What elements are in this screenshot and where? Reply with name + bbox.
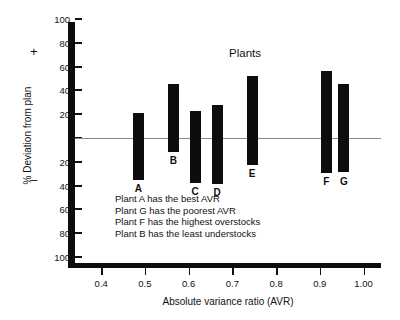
bar-g	[338, 84, 349, 172]
annotation-line-3: Plant F has the highest overstocks	[115, 216, 260, 228]
y-axis-tick	[75, 89, 82, 91]
y-axis-tick-label-text: 80	[59, 228, 76, 239]
annotation-list: Plant A has the best AVRPlant G has the …	[115, 193, 260, 239]
chart-title: Plants	[229, 47, 261, 59]
y-axis-tick	[75, 161, 82, 163]
y-axis-tick-label-text: 20	[59, 156, 76, 167]
y-axis-tick	[75, 113, 82, 115]
bar-c	[190, 111, 201, 184]
annotation-line-2: Plant G has the poorest AVR	[115, 205, 260, 217]
x-axis-tick	[232, 268, 234, 275]
y-axis-tick-label-text: 60	[59, 61, 76, 72]
bar-label-g: G	[340, 176, 348, 187]
y-axis-tick-label: 20	[59, 156, 76, 167]
y-axis-tick	[75, 42, 82, 44]
y-axis-tick-label: 100	[54, 14, 76, 25]
negative-sign-label: –	[30, 172, 37, 187]
positive-sign-label: +	[30, 44, 38, 59]
y-axis-tick-label: 60	[59, 204, 76, 215]
chart-canvas: 1008060402020406080100 0.40.50.60.70.80.…	[0, 0, 400, 320]
y-axis-tick-label-text: 60	[59, 204, 76, 215]
bar-e	[247, 76, 258, 165]
bar-label-f: F	[323, 176, 329, 187]
y-axis-tick-label-text: 100	[54, 252, 76, 263]
zero-reference-line	[75, 138, 381, 139]
x-axis-tick-label: 0.6	[182, 278, 195, 289]
y-axis-tick-label: 80	[59, 37, 76, 48]
bar-f	[321, 71, 332, 172]
y-axis-tick-label-text: 20	[59, 109, 76, 120]
x-axis-tick-label: 0.8	[269, 278, 282, 289]
y-axis-tick-label-text: 80	[59, 37, 76, 48]
x-axis-tick	[276, 268, 278, 275]
y-axis-tick-label: 40	[59, 85, 76, 96]
y-axis-tick-label: 80	[59, 228, 76, 239]
annotation-line-1: Plant A has the best AVR	[115, 193, 260, 205]
y-axis-title: % Deviation from plan	[22, 56, 33, 216]
x-axis-tick	[101, 268, 103, 275]
x-axis-tick-label: 0.9	[313, 278, 326, 289]
y-axis-tick-label: 40	[59, 180, 76, 191]
y-axis-tick	[75, 232, 82, 234]
bar-d	[212, 105, 223, 185]
y-axis-tick	[75, 256, 82, 258]
y-axis-tick	[75, 18, 82, 20]
x-axis-tick	[320, 268, 322, 275]
annotation-line-4: Plant B has the least understocks	[115, 228, 260, 240]
x-axis-tick-label: 0.4	[95, 278, 108, 289]
y-axis-tick-label: 20	[59, 109, 76, 120]
bar-b	[168, 84, 179, 152]
y-axis-tick	[75, 185, 82, 187]
bar-label-e: E	[249, 168, 256, 179]
bar-label-b: B	[170, 155, 177, 166]
x-axis-tick-label: 0.7	[226, 278, 239, 289]
x-axis-tick-label: 0.5	[138, 278, 151, 289]
y-axis-tick-label-text: 100	[54, 14, 76, 25]
y-axis-tick	[75, 66, 82, 68]
y-axis-tick-label: 100	[54, 252, 76, 263]
y-axis-tick-label: 60	[59, 61, 76, 72]
x-axis-tick	[189, 268, 191, 275]
x-axis-tick	[145, 268, 147, 275]
x-axis-spine	[68, 263, 381, 268]
bar-label-a: A	[135, 183, 142, 194]
x-axis-tick	[364, 268, 366, 275]
x-axis-tick-label: 1.00	[354, 278, 373, 289]
y-axis-tick-label-text: 40	[59, 85, 76, 96]
y-axis-tick-label-text: 40	[59, 180, 76, 191]
bar-a	[133, 113, 144, 180]
x-axis-title: Absolute variance ratio (AVR)	[163, 296, 294, 307]
y-axis-tick	[75, 208, 82, 210]
